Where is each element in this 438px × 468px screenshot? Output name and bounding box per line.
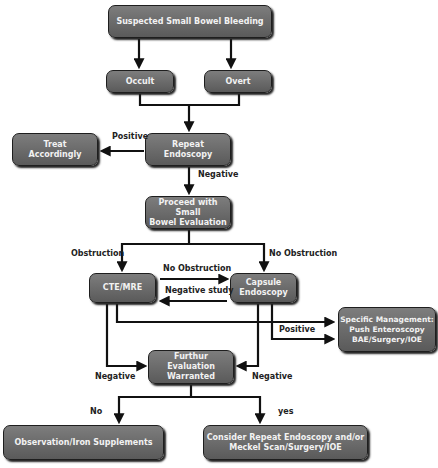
node-label: CTE/MRE [103, 283, 142, 293]
node-label: Repeat Endoscopy [164, 140, 212, 160]
node-repeat-endoscopy: Repeat Endoscopy [145, 133, 231, 166]
node-label: Treat Accordingly [29, 140, 82, 160]
node-suspected-small-bowel-bleeding: Suspected Small Bowel Bleeding [108, 5, 272, 38]
node-overt: Overt [204, 70, 272, 93]
edge-label-negative-left: Negative [95, 372, 135, 381]
node-specific-management: Specific Management: Push Enteroscopy BA… [338, 307, 436, 352]
node-occult: Occult [106, 70, 174, 93]
node-label: Overt [225, 77, 250, 87]
node-label: Specific Management: Push Enteroscopy BA… [340, 315, 434, 345]
node-further-evaluation-warranted: Furthur Evaluation Warranted [148, 350, 234, 384]
node-treat-accordingly: Treat Accordingly [12, 133, 98, 166]
edge-label-positive-specific: Positive [279, 325, 315, 334]
node-label: Capsule Endoscopy [239, 278, 287, 298]
edge-label-negative-study: Negative study [165, 286, 233, 295]
edge-label-yes: yes [278, 407, 293, 416]
edge-label-no-obstruction-right: No Obstruction [269, 249, 337, 258]
node-label: Suspected Small Bowel Bleeding [116, 17, 263, 27]
node-label: Proceed with Small Bowel Evaluation [146, 198, 230, 228]
node-consider-repeat-endoscopy: Consider Repeat Endoscopy and/or Meckel … [203, 425, 368, 460]
edge-label-no: No [90, 407, 102, 416]
node-label: Occult [126, 77, 155, 87]
node-capsule-endoscopy: Capsule Endoscopy [230, 273, 297, 303]
node-observation-iron-supplements: Observation/Iron Supplements [3, 425, 164, 460]
node-proceed-small-bowel-evaluation: Proceed with Small Bowel Evaluation [145, 196, 231, 229]
node-cte-mre: CTE/MRE [89, 273, 156, 303]
node-label: Consider Repeat Endoscopy and/or Meckel … [207, 433, 365, 453]
node-label: Furthur Evaluation Warranted [149, 352, 233, 382]
node-label: Observation/Iron Supplements [15, 438, 153, 448]
edge-label-obstruction: Obstruction [71, 249, 124, 258]
edge-label-positive-treat: Positive [112, 132, 148, 141]
edge-label-no-obstruction-mid: No Obstruction [163, 264, 231, 273]
edge-label-negative-right: Negative [252, 372, 292, 381]
edge-label-negative-repeat: Negative [198, 170, 238, 179]
